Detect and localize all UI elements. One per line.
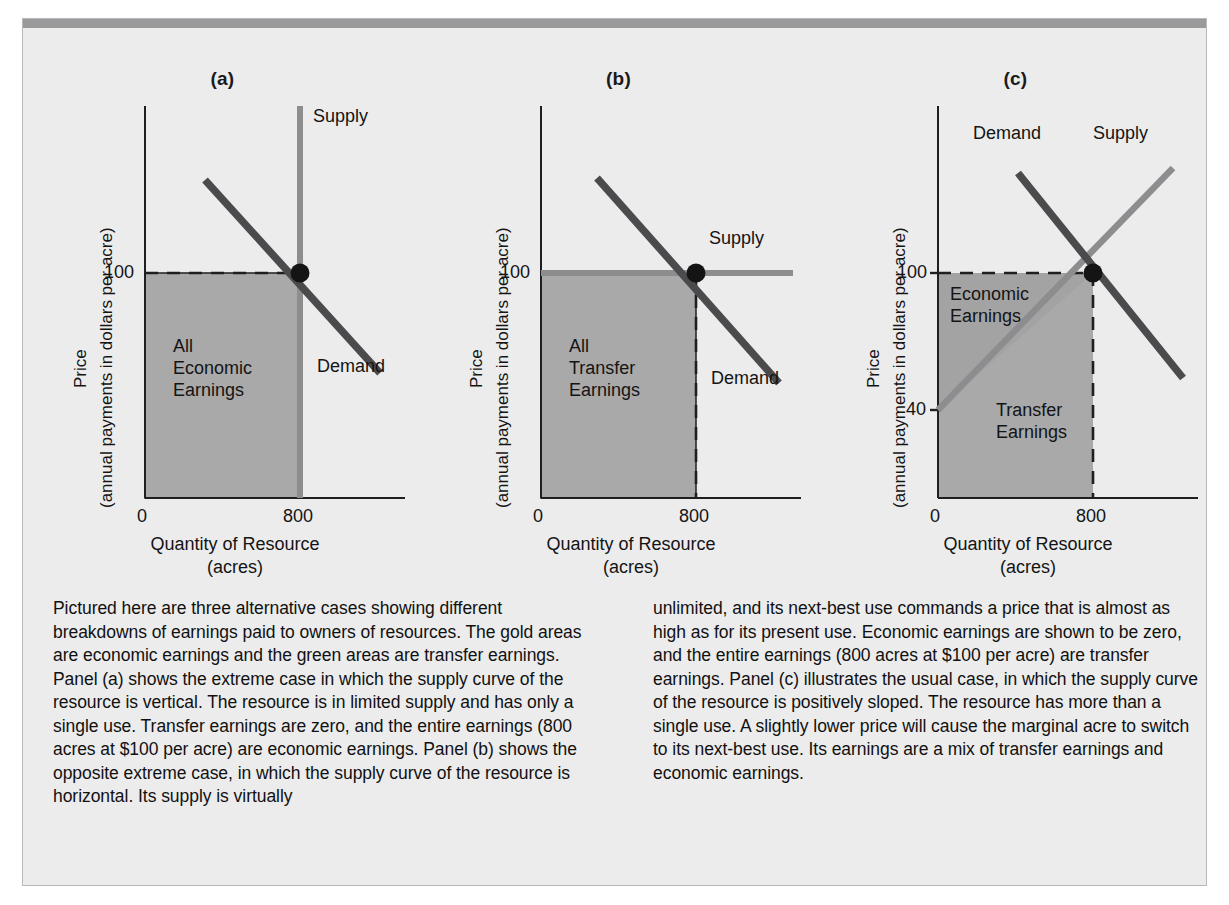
panel-a-x-tick-label-800: 800 xyxy=(283,506,313,527)
panel-a-x-axis-label-line2: (acres) xyxy=(85,556,385,579)
panel-a-demand-label: Demand xyxy=(317,356,385,377)
panel-a-equilibrium-point xyxy=(291,264,310,283)
panel-c-y-tick-label-40: 40 xyxy=(906,399,926,420)
panel-a-y-tick-label-100: 100 xyxy=(104,262,134,283)
panel-c-economic-label-line1: Economic xyxy=(950,284,1029,306)
panel-b-x-tick-label-800: 800 xyxy=(679,506,709,527)
panel-c-x-tick-label-800: 800 xyxy=(1076,506,1106,527)
panel-b-supply-label: Supply xyxy=(709,228,764,249)
panel-b-demand-label: Demand xyxy=(711,368,779,389)
panel-a-area-label-line2: Economic xyxy=(173,358,252,380)
panel-a-area-label-line1: All xyxy=(173,336,193,358)
panels-container: (a) Price (annual payments in dollars xyxy=(23,28,1206,588)
panel-b-plot xyxy=(421,28,816,588)
panel-b-x-tick-label-0: 0 xyxy=(533,506,543,527)
panel-c-supply-label: Supply xyxy=(1093,123,1148,144)
panel-c-transfer-label-line1: Transfer xyxy=(996,400,1062,422)
panel-c-x-axis-label: Quantity of Resource (acres) xyxy=(878,533,1178,578)
panel-c-x-axis-label-line1: Quantity of Resource xyxy=(878,533,1178,556)
panel-b-area-label-line1: All xyxy=(569,336,589,358)
panel-b-x-axis-label: Quantity of Resource (acres) xyxy=(481,533,781,578)
panel-a-y-axis-label-primary: Price xyxy=(71,349,91,388)
panel-c: (c) Price xyxy=(818,28,1207,588)
panel-a-area-label-line3: Earnings xyxy=(173,380,244,402)
panel-c-economic-label-line2: Earnings xyxy=(950,306,1021,328)
panel-c-demand-label: Demand xyxy=(973,123,1041,144)
panel-b: (b) Price (annual payments in dollars pe… xyxy=(421,28,816,588)
panel-a: (a) Price (annual payments in dollars xyxy=(25,28,420,588)
panel-a-x-axis-label: Quantity of Resource (acres) xyxy=(85,533,385,578)
panel-c-transfer-label-line2: Earnings xyxy=(996,422,1067,444)
figure-frame: (a) Price (annual payments in dollars xyxy=(22,18,1207,886)
panel-b-y-axis-label-primary: Price xyxy=(467,349,487,388)
panel-c-x-axis-label-line2: (acres) xyxy=(878,556,1178,579)
caption-right-column: unlimited, and its next-best use command… xyxy=(653,597,1198,785)
panel-b-x-axis-label-line2: (acres) xyxy=(481,556,781,579)
figure-top-bar xyxy=(23,19,1206,28)
panel-c-x-tick-label-0: 0 xyxy=(930,506,940,527)
panel-b-area-label-line2: Transfer xyxy=(569,358,635,380)
panel-b-x-axis-label-line1: Quantity of Resource xyxy=(481,533,781,556)
panel-a-supply-label: Supply xyxy=(313,106,368,127)
panel-c-y-tick-label-100: 100 xyxy=(897,262,927,283)
caption-left-column: Pictured here are three alternative case… xyxy=(53,597,598,809)
panel-b-y-tick-label-100: 100 xyxy=(500,262,530,283)
panel-a-x-tick-label-0: 0 xyxy=(137,506,147,527)
panel-c-y-axis-label-primary: Price xyxy=(864,349,884,388)
panel-b-equilibrium-point xyxy=(687,264,706,283)
panel-b-area-label-line3: Earnings xyxy=(569,380,640,402)
panel-a-x-axis-label-line1: Quantity of Resource xyxy=(85,533,385,556)
panel-c-equilibrium-point xyxy=(1084,264,1103,283)
